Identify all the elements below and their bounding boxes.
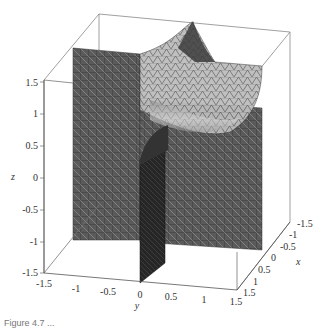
surface-left-sheet	[73, 48, 140, 240]
x-tick-7: 1.5	[243, 287, 256, 298]
x-tick-1: -1.5	[297, 218, 313, 229]
x-tick-2: -1	[289, 229, 297, 240]
y-tick-7: 1.5	[230, 296, 243, 307]
y-tick-2: -1	[72, 283, 80, 294]
x-tick-4: 0	[271, 252, 276, 263]
y-tick-6: 1	[202, 294, 207, 305]
y-tick-4: 0	[138, 289, 143, 300]
z-tick-6: -1	[30, 236, 38, 247]
z-tick-2: 1	[33, 108, 38, 119]
surface-plot: 1.5 1 0.5 0 -0.5 -1 -1.5 z -1.5 -1 -0.5 …	[0, 0, 329, 329]
y-tick-3: -0.5	[100, 286, 116, 297]
y-tick-5: 0.5	[165, 291, 178, 302]
y-axis: -1.5 -1 -0.5 0 0.5 1 1.5 y	[36, 273, 242, 311]
z-tick-7: -1.5	[22, 267, 38, 278]
z-axis: 1.5 1 0.5 0 -0.5 -1 -1.5 z	[10, 77, 44, 278]
y-axis-label: y	[134, 300, 140, 311]
z-tick-5: -0.5	[22, 204, 38, 215]
x-axis-label: x	[295, 256, 301, 267]
z-tick-3: 0.5	[26, 140, 39, 151]
x-tick-5: 0.5	[258, 264, 271, 275]
z-tick-4: 0	[33, 172, 38, 183]
z-axis-label: z	[10, 171, 15, 182]
figure-caption: Figure 4.7 ...	[4, 318, 55, 328]
z-tick-1: 1.5	[26, 77, 39, 88]
x-tick-3: -0.5	[280, 241, 296, 252]
surface-center-strip	[140, 150, 165, 283]
y-tick-1: -1.5	[36, 278, 52, 289]
x-tick-6: 1	[253, 276, 258, 287]
